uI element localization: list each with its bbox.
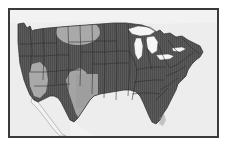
map-frame xyxy=(8,8,219,138)
map-canvas[interactable] xyxy=(10,10,217,136)
map-figure xyxy=(0,0,227,146)
